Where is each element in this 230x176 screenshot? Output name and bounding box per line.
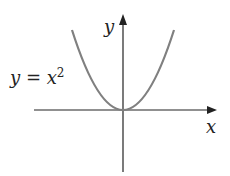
diagram-svg: y x y = x2 [0,0,230,176]
y-axis-label: y [103,16,115,37]
equation-exponent: 2 [57,66,65,80]
parabola-diagram: y x y = x2 [0,0,230,176]
x-axis-label: x [206,116,216,137]
equation-label: y = x2 [9,66,65,88]
equation-base: x [47,67,57,88]
equation-op: = [20,67,47,88]
y-axis-arrow-icon [119,14,127,25]
x-axis-arrow-icon [207,106,217,114]
